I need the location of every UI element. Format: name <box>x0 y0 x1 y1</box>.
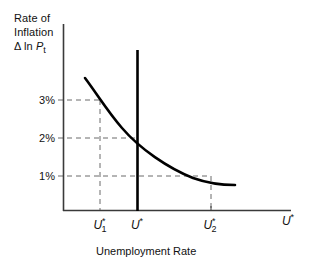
y-tick-label-3pct: 3% <box>29 94 55 108</box>
guide-lines <box>58 100 211 210</box>
x-axis-end-label-u-star: U* <box>274 214 302 229</box>
x-tick-label-u-star-2: U*2 <box>196 218 224 233</box>
y-axis-title-line-2: Inflation <box>14 26 53 40</box>
u-base: U <box>131 218 140 232</box>
y-axis-title: Rate of Inflation Δ ln Pt <box>14 12 53 56</box>
u2-subscript: 2 <box>212 224 217 234</box>
uend-base: U <box>282 214 291 228</box>
y-axis-title-line-1: Rate of <box>14 12 53 26</box>
x-tick-label-u-star-1: U*1 <box>86 218 114 233</box>
u-superscript: * <box>140 216 144 226</box>
y-tick-label-2pct: 2% <box>29 132 55 146</box>
u1-base: U <box>93 218 102 232</box>
uend-superscript: * <box>291 212 295 222</box>
axes <box>63 24 291 211</box>
u1-subscript: 1 <box>102 224 107 234</box>
y-tick-label-1pct: 1% <box>29 170 55 184</box>
y-axis-title-line-3: Δ ln Pt <box>14 40 53 57</box>
x-axis-title: Unemployment Rate <box>96 245 196 259</box>
delta-ln-text: Δ ln <box>14 40 36 52</box>
phillips-curve-figure: Rate of Inflation Δ ln Pt 3% 2% 1% U*1 U… <box>0 0 314 266</box>
u2-base: U <box>203 218 212 232</box>
x-tick-label-u-star: U* <box>123 218 151 233</box>
short-run-phillips-curve <box>85 78 235 185</box>
p-subscript-t: t <box>43 45 46 55</box>
